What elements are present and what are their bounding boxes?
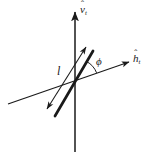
diagram-svg xyxy=(0,0,152,157)
v-hat-glyph: ˆ v xyxy=(80,4,85,15)
horizontal-axis xyxy=(8,62,129,104)
vertical-axis-label: ˆ v t xyxy=(80,4,87,16)
hat-accent-icon: ˆ xyxy=(134,49,137,58)
hat-accent-icon: ˆ xyxy=(81,0,84,9)
v-subscript: t xyxy=(85,9,87,16)
line-label-l: l xyxy=(57,65,60,77)
figure-canvas: ˆ v t ˆ h t ϕ l xyxy=(0,0,152,157)
horizontal-axis-label: ˆ h t xyxy=(133,53,140,65)
angle-label-phi: ϕ xyxy=(96,56,102,67)
parallel-double-arrow xyxy=(47,47,86,109)
line-l xyxy=(55,51,93,116)
h-hat-glyph: ˆ h xyxy=(133,53,139,64)
